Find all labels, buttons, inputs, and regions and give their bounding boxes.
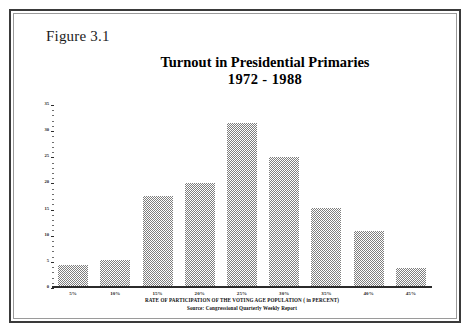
- x-axis-tick-label: 40%: [349, 291, 389, 296]
- x-axis-tick-label: 10%: [95, 291, 135, 296]
- plot-area: [52, 105, 432, 288]
- y-axis-tick-label: 15: [45, 206, 49, 211]
- x-axis-tick-label: 35%: [306, 291, 346, 296]
- y-axis-tick-label: 25: [45, 153, 49, 158]
- bar: [227, 123, 257, 286]
- y-axis-tick: 35: [30, 105, 54, 106]
- y-axis-tick-label: 20: [45, 179, 49, 184]
- y-axis-tick: 5: [30, 262, 54, 263]
- y-axis-tick: 30: [30, 131, 54, 132]
- y-axis-tick-label: 0: [47, 284, 49, 289]
- y-axis-tick-label: 35: [45, 101, 49, 106]
- bar: [58, 265, 88, 286]
- bar: [354, 231, 384, 286]
- bar: [185, 183, 215, 286]
- y-axis-tick-label: 5: [47, 258, 49, 263]
- y-axis-tick: 25: [30, 157, 54, 158]
- chart-title: Turnout in Presidential Primaries 1972 -…: [120, 54, 410, 88]
- bar: [269, 157, 299, 286]
- bar: [311, 208, 341, 286]
- source-note: Source: Congressional Quarterly Weekly R…: [52, 305, 432, 311]
- x-axis-line: [52, 286, 432, 288]
- chart-title-line1: Turnout in Presidential Primaries: [120, 54, 410, 71]
- x-axis-tick-label: 5%: [53, 291, 93, 296]
- x-axis-tick-label: 30%: [264, 291, 304, 296]
- x-axis-tick-label: 25%: [222, 291, 262, 296]
- x-axis-tick-label: 45%: [391, 291, 431, 296]
- bar: [396, 268, 426, 286]
- y-axis-tick: 10: [30, 236, 54, 237]
- x-axis-tick-label: 15%: [138, 291, 178, 296]
- figure-caption-label: Figure 3.1: [46, 28, 110, 45]
- y-axis-tick-mark: [51, 288, 54, 289]
- y-axis-tick: 15: [30, 210, 54, 211]
- bar: [100, 260, 130, 286]
- x-axis-tick-label: 20%: [180, 291, 220, 296]
- chart-title-line2: 1972 - 1988: [120, 71, 410, 88]
- y-axis-tick: 0: [30, 288, 54, 289]
- x-axis-title: RATE OF PARTICIPATION OF THE VOTING AGE …: [52, 297, 432, 303]
- y-axis-tick-label: 10: [45, 232, 49, 237]
- y-axis: 35302520151050: [30, 100, 54, 292]
- y-axis-tick-label: 30: [45, 127, 49, 132]
- bar: [143, 196, 173, 287]
- y-axis-tick: 20: [30, 183, 54, 184]
